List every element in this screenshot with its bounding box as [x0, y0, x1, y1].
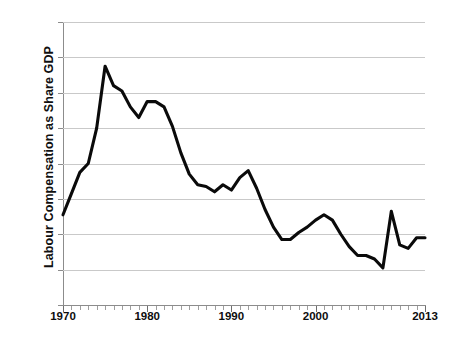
- y-tick-mark: [58, 270, 63, 271]
- x-tick-label: 2000: [286, 310, 346, 322]
- y-tick-mark: [58, 234, 63, 235]
- y-tick-mark: [58, 199, 63, 200]
- x-tick-label: 1990: [201, 310, 261, 322]
- y-tick-mark: [58, 93, 63, 94]
- x-tick-label: 1970: [33, 310, 93, 322]
- x-tick-mark-minor: [282, 306, 283, 310]
- y-tick-mark: [58, 22, 63, 23]
- x-tick-mark-minor: [374, 306, 375, 310]
- chart-container: Labour Compensation as Share GDP 56%55%5…: [0, 0, 451, 348]
- y-tick-mark: [58, 164, 63, 165]
- x-tick-mark-minor: [189, 306, 190, 310]
- grid-line: [63, 270, 425, 271]
- x-tick-mark-minor: [114, 306, 115, 310]
- y-tick-mark: [58, 57, 63, 58]
- x-tick-mark-minor: [198, 306, 199, 310]
- grid-line: [63, 93, 425, 94]
- grid-line: [63, 199, 425, 200]
- x-tick-mark-minor: [391, 306, 392, 310]
- grid-line: [63, 164, 425, 165]
- plot-area: [63, 22, 425, 305]
- grid-line: [63, 22, 425, 23]
- x-axis-line: [63, 305, 426, 306]
- x-tick-mark-minor: [105, 306, 106, 310]
- grid-line: [63, 128, 425, 129]
- x-tick-mark-minor: [349, 306, 350, 310]
- x-tick-mark-minor: [366, 306, 367, 310]
- x-tick-mark-minor: [97, 306, 98, 310]
- x-tick-mark-minor: [181, 306, 182, 310]
- x-tick-mark-minor: [265, 306, 266, 310]
- x-tick-mark-minor: [383, 306, 384, 310]
- x-tick-label: 1980: [117, 310, 177, 322]
- x-tick-mark-minor: [358, 306, 359, 310]
- x-tick-mark-minor: [273, 306, 274, 310]
- grid-line: [63, 57, 425, 58]
- grid-line: [63, 234, 425, 235]
- y-tick-mark: [58, 128, 63, 129]
- y-axis-title: Labour Compensation as Share GDP: [42, 17, 56, 297]
- x-tick-label: 2013: [395, 310, 451, 322]
